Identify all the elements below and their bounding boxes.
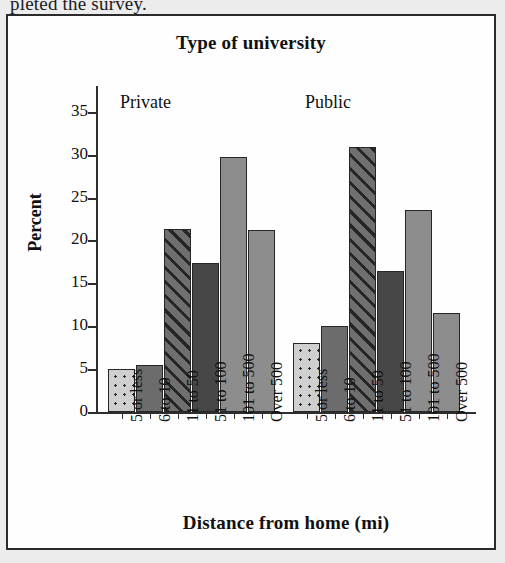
y-tick-30: 30	[36, 155, 88, 157]
y-axis-title: Percent	[25, 163, 46, 283]
category-label: 51 to 100	[397, 362, 415, 422]
y-tick-10: 10	[36, 326, 88, 328]
screenshot-page: pleted the survey. Type of university Pr…	[0, 0, 505, 563]
x-tick-mark	[363, 414, 364, 419]
y-tick-0: 0	[36, 412, 88, 414]
y-tick-mark	[88, 240, 97, 242]
x-tick-mark	[262, 414, 263, 419]
category-label: 11 to 50	[184, 370, 202, 422]
y-tick-label: 20	[48, 229, 88, 249]
y-tick-mark	[88, 155, 97, 157]
y-tick-label: 0	[48, 401, 88, 421]
y-tick-mark	[88, 412, 97, 414]
category-label: 5 or less	[128, 369, 146, 422]
y-tick-mark	[88, 326, 97, 328]
x-tick-mark	[307, 414, 308, 419]
y-tick-mark	[88, 198, 97, 200]
x-tick-mark	[206, 414, 207, 419]
cutoff-body-text: pleted the survey.	[10, 0, 147, 15]
category-label: 6 to 10	[341, 378, 359, 422]
y-tick-label: 35	[48, 101, 88, 121]
y-tick-5: 5	[36, 369, 88, 371]
x-tick-mark	[122, 414, 123, 419]
y-tick-15: 15	[36, 283, 88, 285]
category-label: Over 500	[268, 362, 286, 422]
y-tick-35: 35	[36, 112, 88, 114]
x-axis-title: Distance from home (mi)	[96, 512, 476, 534]
category-label: Over 500	[453, 362, 471, 422]
x-tick-mark	[419, 414, 420, 419]
y-tick-label: 5	[48, 358, 88, 378]
y-tick-mark	[88, 369, 97, 371]
plot-area: Private Public 05101520253035 Percent 5 …	[8, 16, 494, 548]
x-tick-mark	[447, 414, 448, 419]
category-label: 5 or less	[313, 369, 331, 422]
category-label: 101 to 500	[425, 354, 443, 422]
y-tick-mark	[88, 112, 97, 114]
x-tick-mark	[391, 414, 392, 419]
category-label: 6 to 10	[156, 378, 174, 422]
y-tick-label: 10	[48, 315, 88, 335]
y-tick-label: 25	[48, 187, 88, 207]
chart-figure-box: Type of university Private Public 051015…	[6, 14, 496, 550]
y-axis-line	[96, 86, 98, 413]
category-label: 11 to 50	[369, 370, 387, 422]
x-tick-mark	[150, 414, 151, 419]
panel-label-public: Public	[305, 92, 351, 113]
y-tick-label: 15	[48, 272, 88, 292]
y-tick-mark	[88, 283, 97, 285]
category-label: 101 to 500	[240, 354, 258, 422]
x-tick-mark	[234, 414, 235, 419]
y-tick-label: 30	[48, 144, 88, 164]
panel-label-private: Private	[120, 92, 171, 113]
x-tick-mark	[178, 414, 179, 419]
x-tick-mark	[335, 414, 336, 419]
category-label: 51 to 100	[212, 362, 230, 422]
